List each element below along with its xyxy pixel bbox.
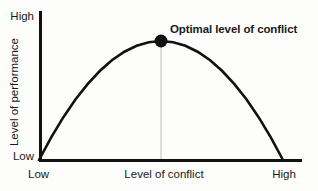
y-axis-low-label: Low	[0, 151, 34, 163]
optimal-point-marker	[155, 35, 168, 48]
y-axis-high-label: High	[0, 11, 34, 23]
conflict-performance-chart: High Low Level of performance Low Level …	[0, 0, 318, 191]
optimal-point-annotation-label: Optimal level of conflict	[170, 24, 297, 36]
y-axis-title: Level of performance	[9, 37, 21, 147]
y-axis-title-container: Level of performance	[9, 37, 25, 147]
x-axis-high-label: High	[264, 169, 304, 181]
